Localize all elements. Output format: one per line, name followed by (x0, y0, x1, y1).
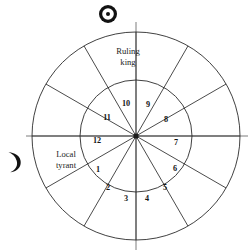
sector-label-ruling-king-line2: king (120, 57, 136, 67)
inner-number-6: 6 (173, 164, 177, 173)
spoke-330 (136, 136, 226, 188)
inner-number-2: 2 (106, 183, 110, 192)
sun-icon (98, 4, 118, 24)
diagram-root: 1 2 3 4 5 6 7 8 9 10 11 12 Ruling king L… (0, 0, 250, 252)
spoke-60 (136, 46, 188, 136)
wheel-diagram: 1 2 3 4 5 6 7 8 9 10 11 12 Ruling king L… (0, 0, 250, 252)
spoke-300 (136, 136, 188, 226)
inner-number-5: 5 (163, 183, 167, 192)
inner-number-3: 3 (124, 194, 128, 203)
inner-number-12: 12 (93, 136, 101, 145)
center-hub (133, 133, 138, 138)
spoke-30 (136, 84, 226, 136)
spoke-240 (84, 136, 136, 226)
sector-label-local-tyrant-line1: Local (56, 149, 76, 159)
inner-number-4: 4 (145, 194, 149, 203)
inner-number-9: 9 (146, 100, 150, 109)
sector-label-local-tyrant-line2: tyrant (56, 160, 77, 170)
moon-icon (4, 150, 24, 174)
inner-number-7: 7 (174, 138, 178, 147)
inner-number-11: 11 (103, 113, 111, 122)
inner-number-group: 1 2 3 4 5 6 7 8 9 10 11 12 (93, 99, 178, 203)
spoke-150 (46, 84, 136, 136)
sector-label-group: Ruling king Local tyrant (56, 46, 140, 170)
inner-number-1: 1 (96, 165, 100, 174)
inner-number-10: 10 (122, 99, 130, 108)
sector-label-ruling-king-line1: Ruling (116, 46, 140, 56)
inner-number-8: 8 (164, 115, 168, 124)
